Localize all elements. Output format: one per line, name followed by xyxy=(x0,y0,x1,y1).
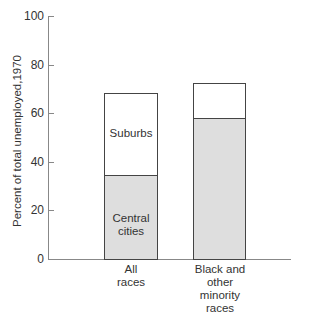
category-label: All xyxy=(96,263,166,276)
segment-label-cities: cities xyxy=(104,225,158,238)
category-label: races xyxy=(180,302,260,312)
y-tick xyxy=(48,210,54,211)
y-tick xyxy=(48,16,54,17)
segment-label-central: Central xyxy=(104,212,158,225)
category-label: Black and xyxy=(180,263,260,276)
segment-label-suburbs: Suburbs xyxy=(104,127,158,140)
y-tick xyxy=(48,113,54,114)
y-tick-label: 80 xyxy=(4,59,44,71)
x-axis xyxy=(48,259,291,260)
category-label: other xyxy=(180,276,260,289)
category-label: races xyxy=(96,276,166,289)
y-tick-label: 40 xyxy=(4,156,44,168)
category-label: minority xyxy=(180,289,260,302)
bar-minority-central-cities xyxy=(193,118,246,260)
y-tick-label: 0 xyxy=(4,253,44,265)
y-tick xyxy=(48,65,54,66)
y-tick-label: 60 xyxy=(4,107,44,119)
bar-minority-suburbs xyxy=(193,83,246,119)
y-tick xyxy=(48,162,54,163)
y-axis-title: Percent of total unemployed,1970 xyxy=(11,41,23,241)
y-tick-label: 100 xyxy=(4,10,44,22)
y-axis xyxy=(48,16,49,259)
y-tick-label: 20 xyxy=(4,204,44,216)
